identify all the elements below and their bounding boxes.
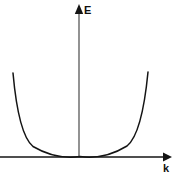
- e-axis-label: E: [84, 4, 91, 16]
- k-axis-label: k: [163, 162, 170, 174]
- plot-background: [0, 0, 178, 175]
- figure-root: E k: [0, 0, 178, 175]
- dispersion-plot-svg: E k: [0, 0, 178, 175]
